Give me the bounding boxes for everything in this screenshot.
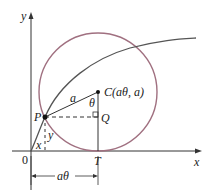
- point-P: [43, 115, 48, 120]
- y-axis-label: y: [20, 9, 27, 23]
- point-Q-label: Q: [101, 111, 110, 125]
- right-angle-marker: [93, 112, 98, 117]
- cycloid-diagram: y x 0 T P Q C(aθ, a) a θ x y aθ: [0, 0, 213, 192]
- point-T-label: T: [94, 154, 102, 168]
- point-P-label: P: [33, 110, 42, 124]
- arc-length-label: aθ: [57, 169, 69, 183]
- x-axis-arrow-icon: [195, 149, 202, 154]
- origin-label: 0: [22, 153, 28, 167]
- point-C: [96, 90, 100, 94]
- x-axis-label: x: [193, 155, 200, 169]
- radius-label: a: [70, 91, 76, 105]
- point-C-label: C(aθ, a): [104, 85, 144, 99]
- angle-label: θ: [89, 96, 95, 110]
- x-segment-label: x: [35, 138, 42, 152]
- y-segment-label: y: [47, 128, 54, 142]
- axes: [12, 12, 202, 190]
- y-axis-arrow-icon: [29, 12, 34, 19]
